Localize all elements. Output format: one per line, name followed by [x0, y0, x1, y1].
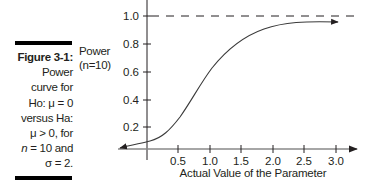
y-tick-label: 0.6	[123, 66, 139, 78]
x-tick-label: 2.5	[296, 155, 312, 167]
x-tick-label: 1.0	[202, 155, 218, 167]
y-tick-label: 1.0	[123, 10, 139, 22]
x-tick-label: 2.0	[265, 155, 281, 167]
y-tick-labels: 1.0 0.8 0.6 0.4 0.2	[123, 10, 140, 133]
x-tick-label: 1.5	[233, 155, 249, 167]
power-curve-chart: 1.0 0.8 0.6 0.4 0.2 0.5 1.0 1.5 2.0 2.5 …	[0, 0, 371, 190]
x-axis-label: Actual Value of the Parameter	[170, 167, 336, 179]
y-tick-label: 0.4	[123, 94, 140, 106]
x-tick-label: 3.0	[328, 155, 344, 167]
power-curve	[120, 22, 338, 148]
x-tick-label: 0.5	[170, 155, 186, 167]
y-tick-label: 0.2	[123, 121, 139, 133]
y-tick-label: 0.8	[123, 38, 139, 50]
x-tick-labels: 0.5 1.0 1.5 2.0 2.5 3.0	[170, 155, 344, 167]
